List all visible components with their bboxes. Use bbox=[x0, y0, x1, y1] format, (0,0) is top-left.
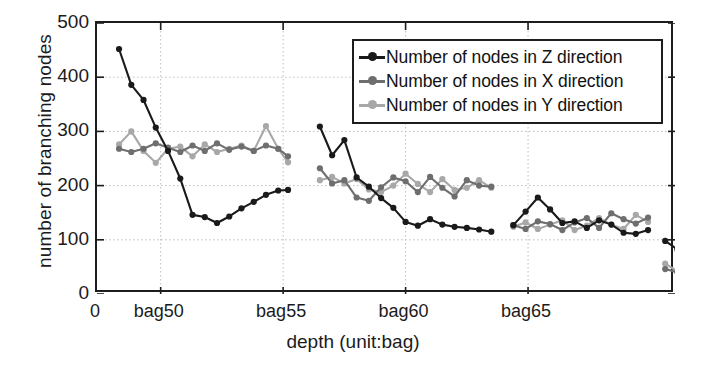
y-tick-label-300: 300 bbox=[23, 120, 89, 139]
y-tick-label-400: 400 bbox=[23, 66, 89, 85]
y-tick-label-500: 500 bbox=[23, 12, 89, 31]
chart-figure: number of branching nodes depth (unit:ba… bbox=[0, 0, 706, 372]
y-tick-label-200: 200 bbox=[23, 175, 89, 194]
legend-label: Number of nodes in Z direction bbox=[386, 47, 622, 68]
x-axis-title: depth (unit:bag) bbox=[0, 331, 706, 353]
legend-line-marker-icon bbox=[359, 97, 385, 113]
legend-item-z[interactable]: Number of nodes in Z direction bbox=[359, 45, 656, 69]
legend-label: Number of nodes in X direction bbox=[386, 71, 623, 92]
legend-item-y[interactable]: Number of nodes in Y direction bbox=[359, 93, 656, 117]
y-axis-title: number of branching nodes bbox=[34, 1, 56, 301]
x-tick-label-bag50: bag50 bbox=[134, 302, 184, 320]
series-y bbox=[116, 123, 675, 276]
y-tick-label-100: 100 bbox=[23, 229, 89, 248]
x-tick-label-bag60: bag60 bbox=[379, 302, 429, 320]
x-tick-label-bag65: bag65 bbox=[501, 302, 551, 320]
x-tick-label-bag55: bag55 bbox=[256, 302, 306, 320]
legend-line-marker-icon bbox=[359, 49, 385, 65]
chart-legend: Number of nodes in Z directionNumber of … bbox=[352, 39, 663, 124]
x-tick-label-origin: 0 bbox=[90, 302, 100, 320]
legend-line-marker-icon bbox=[359, 73, 385, 89]
y-tick-label-0: 0 bbox=[23, 283, 89, 302]
legend-item-x[interactable]: Number of nodes in X direction bbox=[359, 69, 656, 93]
legend-label: Number of nodes in Y direction bbox=[386, 95, 623, 116]
